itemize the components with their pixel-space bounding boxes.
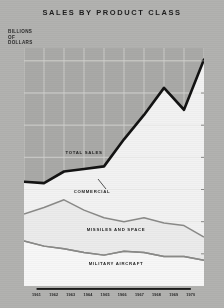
y-axis-label-line-3: DOLLARS — [8, 40, 48, 46]
x-tick-label: 1962 — [49, 293, 58, 297]
line-chart: 0.51.01.52.02.53.03.5TOTAL SALESCOMMERCI… — [24, 48, 204, 286]
y-axis-label: BILLIONS OF DOLLARS — [8, 29, 48, 46]
x-tick-label: 1966 — [118, 293, 127, 297]
series-annotation: TOTAL SALES — [65, 150, 102, 155]
x-tick-label: 1969 — [169, 293, 178, 297]
plot-area: 0.51.01.52.02.53.03.5TOTAL SALESCOMMERCI… — [24, 48, 204, 286]
x-tick-label: 1967 — [135, 293, 144, 297]
page-title: SALES BY PRODUCT CLASS — [0, 8, 224, 17]
x-tick-label: 1970 — [186, 293, 195, 297]
x-axis: 1961196219631964196519661967196819691970 — [0, 288, 224, 300]
x-tick-label: 1965 — [101, 293, 110, 297]
x-tick-label: 1961 — [32, 293, 41, 297]
x-tick-label: 1964 — [83, 293, 93, 297]
chart-page: SALES BY PRODUCT CLASS BILLIONS OF DOLLA… — [0, 0, 224, 308]
x-tick-label: 1963 — [66, 293, 75, 297]
series-annotation: COMMERCIAL — [74, 189, 111, 194]
x-tick-label: 1968 — [152, 293, 161, 297]
series-annotation: MILITARY AIRCRAFT — [89, 261, 144, 266]
series-annotation: MISSILES AND SPACE — [87, 227, 146, 232]
